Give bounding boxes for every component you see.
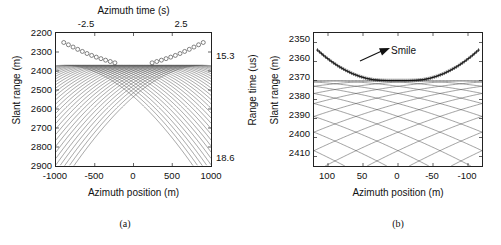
panel-b-x-tick-1: 50 — [348, 171, 376, 181]
panel-a-x-tick-1: -500 — [79, 171, 109, 181]
panel-a-x-tick-0: -1000 — [40, 171, 70, 181]
panel-b-x-tick-3: -50 — [418, 171, 446, 181]
panel-a-caption: (a) — [105, 219, 145, 229]
panel-b-x-tick-4: -100 — [453, 171, 481, 181]
panel-a-x-top-title: Azimuth time (s) — [55, 6, 212, 16]
panel-a-x-tick-2: 0 — [118, 171, 148, 181]
panel-b-x-bottom-title: Azimuth position (m) — [313, 188, 483, 198]
panel-a-y-right-tick-1: 18.6 — [216, 153, 246, 163]
panel-a-y-left-tick-5: 2700 — [20, 123, 52, 133]
panel-b-y-left-tick-6: 2410 — [278, 148, 310, 158]
panel-a-y-left-tick-2: 2400 — [20, 66, 52, 76]
panel-a-y-left-tick-0: 2200 — [20, 28, 52, 38]
panel-a-y-left-tick-3: 2500 — [20, 85, 52, 95]
figure-container: Azimuth time (s) -2.5 2.5 Slant range (m… — [0, 0, 501, 245]
panel-a-curves — [56, 33, 211, 166]
panel-b-x-tick-0: 100 — [313, 171, 341, 181]
panel-b-y-left-tick-3: 2380 — [278, 91, 310, 101]
panel-a-x-tick-3: 500 — [157, 171, 187, 181]
panel-a-x-bottom-title: Azimuth position (m) — [55, 188, 212, 198]
panel-a-x-tick-4: 1000 — [196, 171, 226, 181]
panel-a-y-right-title: Range time (us) — [248, 35, 258, 145]
panel-b-y-left-tick-1: 2360 — [278, 53, 310, 63]
panel-b-y-left-tick-2: 2370 — [278, 72, 310, 82]
panel-b-x-tick-2: 0 — [383, 171, 411, 181]
panel-b-y-left-tick-4: 2390 — [278, 110, 310, 120]
panel-a-y-left-tick-4: 2600 — [20, 104, 52, 114]
panel-a-y-left-tick-6: 2800 — [20, 142, 52, 152]
panel-a-y-left-tick-1: 2300 — [20, 47, 52, 57]
smile-annotation-arrow-icon — [358, 44, 392, 64]
smile-annotation-label: Smile — [391, 46, 416, 56]
panel-a-y-right-tick-0: 15.3 — [216, 51, 246, 61]
panel-a-x-top-tick-1: 2.5 — [168, 19, 194, 29]
panel-b-caption: (b) — [378, 219, 418, 229]
panel-b-y-left-tick-5: 2400 — [278, 129, 310, 139]
panel-a-plot-area — [55, 32, 212, 167]
panel-b-y-left-tick-0: 2350 — [278, 34, 310, 44]
panel-a-x-top-tick-0: -2.5 — [73, 19, 99, 29]
